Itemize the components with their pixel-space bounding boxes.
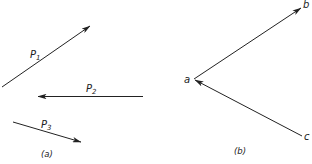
vector-ca-line bbox=[195, 80, 302, 136]
vector-p1: P1 bbox=[2, 26, 90, 87]
vector-p2-label: P2 bbox=[86, 83, 97, 96]
vector-diagram-figure: P1 P2 P3 (a) a b c (b) bbox=[0, 0, 312, 164]
diagram-canvas: P1 P2 P3 (a) a b c (b) bbox=[0, 0, 312, 164]
vector-p2: P2 bbox=[38, 83, 143, 97]
vector-ab-line bbox=[194, 8, 301, 79]
vector-p3-label: P3 bbox=[41, 119, 52, 132]
point-c-label: c bbox=[304, 131, 310, 142]
vector-ca bbox=[195, 80, 302, 136]
panel-b-caption: (b) bbox=[234, 146, 246, 156]
panel-a: P1 P2 P3 (a) bbox=[2, 26, 143, 159]
vector-p3: P3 bbox=[13, 119, 81, 142]
point-b-label: b bbox=[303, 0, 309, 10]
vector-p1-line bbox=[2, 26, 90, 87]
panel-a-caption: (a) bbox=[41, 149, 53, 159]
vector-ab bbox=[194, 8, 301, 79]
panel-b: a b c (b) bbox=[184, 0, 310, 156]
vector-p1-label: P1 bbox=[30, 49, 41, 62]
point-a-label: a bbox=[184, 74, 190, 85]
